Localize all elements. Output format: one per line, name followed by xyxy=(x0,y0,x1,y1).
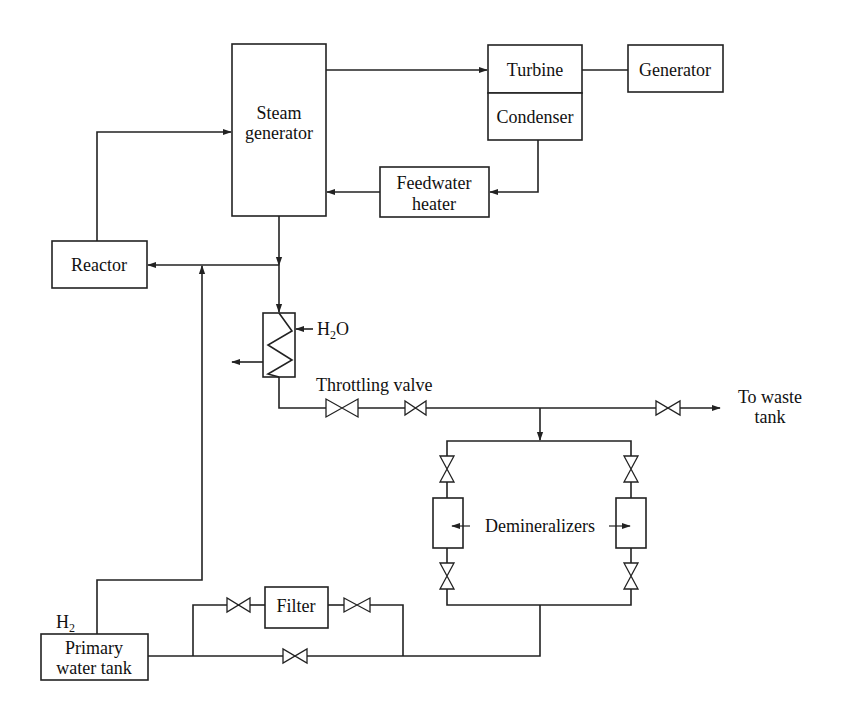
bypass-valve-icon[interactable] xyxy=(283,649,307,663)
steam-generator-label: generator xyxy=(245,123,313,143)
primary-water-tank[interactable]: Primary water tank xyxy=(41,634,148,680)
demineralizer-right[interactable] xyxy=(616,498,646,548)
steam-generator-label: Steam xyxy=(257,103,302,123)
pipe-demin-bottom xyxy=(447,589,631,605)
pipe-h2-return xyxy=(97,266,202,634)
turbine[interactable]: Turbine xyxy=(488,45,582,93)
pipe-condenser-to-feedwater xyxy=(490,140,538,192)
feedwater-heater-label: heater xyxy=(412,194,456,214)
reactor[interactable]: Reactor xyxy=(52,241,147,288)
filter-outlet-valve-icon[interactable] xyxy=(344,598,370,612)
demin-right-top-valve-icon[interactable] xyxy=(624,456,638,482)
h2-gas-label: H2 xyxy=(56,612,75,635)
condenser[interactable]: Condenser xyxy=(488,93,582,140)
condenser-label: Condenser xyxy=(497,107,574,127)
generator-label: Generator xyxy=(639,60,711,80)
filter[interactable]: Filter xyxy=(265,587,328,628)
coolant-label: H2O xyxy=(317,319,349,342)
primary-water-tank-label: water tank xyxy=(56,658,131,678)
waste-tank-label: To waste xyxy=(738,387,802,407)
filter-label: Filter xyxy=(277,596,316,616)
flow-diagram: Steam generator Turbine Condenser Genera… xyxy=(0,0,851,710)
pipe-filter-right xyxy=(370,605,403,656)
demin-right-bottom-valve-icon[interactable] xyxy=(624,563,638,589)
generator[interactable]: Generator xyxy=(628,45,723,92)
feedwater-heater[interactable]: Feedwater heater xyxy=(380,167,489,217)
primary-water-tank-label: Primary xyxy=(65,638,123,658)
demineralizers-label: Demineralizers xyxy=(485,516,595,536)
feedwater-heater-label: Feedwater xyxy=(397,173,472,193)
throttling-valve-label: Throttling valve xyxy=(316,375,432,395)
demin-left-top-valve-icon[interactable] xyxy=(440,456,454,482)
filter-inlet-valve-icon[interactable] xyxy=(227,598,250,612)
valve-icon[interactable] xyxy=(405,401,426,415)
steam-generator[interactable]: Steam generator xyxy=(232,44,326,216)
pipe-reactor-to-steam xyxy=(97,132,231,241)
demin-left-bottom-valve-icon[interactable] xyxy=(440,563,454,589)
pipe-filter-left xyxy=(193,605,227,656)
demineralizer-left[interactable] xyxy=(433,498,463,548)
heat-exchanger[interactable] xyxy=(263,313,295,377)
waste-tank-label: tank xyxy=(755,407,786,427)
reactor-label: Reactor xyxy=(71,255,127,275)
turbine-label: Turbine xyxy=(507,60,563,80)
waste-valve-icon[interactable] xyxy=(656,401,680,415)
throttling-valve-icon[interactable] xyxy=(326,399,358,417)
pipe-demin-top xyxy=(447,441,631,456)
pipe-demin-out xyxy=(403,605,540,656)
